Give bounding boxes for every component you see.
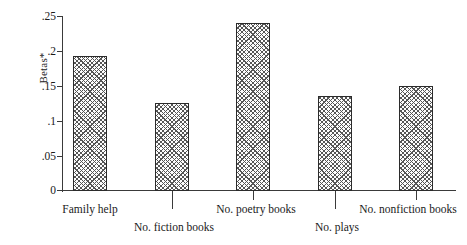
x-axis-label-family-help: Family help — [62, 203, 117, 216]
x-axis-label-no-poetry-books: No. poetry books — [216, 203, 296, 216]
x-tick-mark-no-poetry-books — [253, 191, 254, 200]
x-axis-label-no-nonfiction-books: No. nonfiction books — [359, 203, 456, 216]
x-axis-label-no-plays: No. plays — [315, 221, 359, 234]
bar-family-help — [73, 56, 107, 191]
y-tick-label-025: .25 — [22, 11, 56, 22]
x-tick-mark-no-nonfiction-books — [416, 191, 417, 200]
y-tick-label-015: .15 — [22, 81, 56, 92]
bar-chart-figure: Betas* .25 .2 .15 .1 .05 0 Family help N… — [0, 0, 467, 245]
bar-no-plays — [318, 96, 352, 191]
y-tick-label-0: 0 — [22, 185, 56, 196]
y-axis-title: Betas* — [37, 23, 49, 113]
bar-no-fiction-books — [155, 103, 189, 191]
y-tick-label-005: .05 — [22, 151, 56, 162]
y-tick-label-02: .2 — [22, 46, 56, 57]
x-tick-mark-no-fiction-books — [172, 191, 173, 209]
x-axis-label-no-fiction-books: No. fiction books — [134, 221, 214, 234]
x-tick-mark-no-plays — [335, 191, 336, 209]
bar-no-poetry-books — [236, 23, 270, 191]
y-tick-label-01: .1 — [22, 116, 56, 127]
y-axis-line — [62, 16, 63, 192]
bar-no-nonfiction-books-2 — [399, 86, 433, 191]
